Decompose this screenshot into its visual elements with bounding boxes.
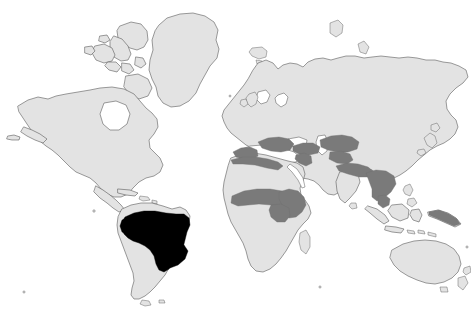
landmass-speck-indian-a bbox=[319, 286, 321, 288]
world-distribution-map-figure bbox=[0, 0, 471, 315]
world-map-svg bbox=[0, 0, 471, 315]
landmass-speck-atlantic-a bbox=[93, 210, 95, 212]
landmass-speck-pacific-b bbox=[466, 246, 468, 248]
landmass-speck-atlantic-b bbox=[229, 95, 231, 97]
range-secondary-anatolia bbox=[293, 143, 320, 155]
landmass-speck-pacific-a bbox=[23, 291, 25, 293]
landmass-tasmania bbox=[440, 287, 448, 292]
landmass-falklands bbox=[159, 300, 165, 303]
